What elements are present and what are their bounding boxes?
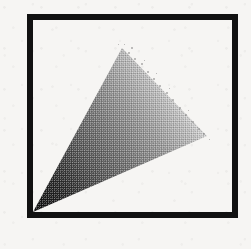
figure-container	[0, 0, 251, 249]
triangle-dither-overlay-coarse	[30, 40, 215, 220]
figure-canvas	[0, 0, 251, 249]
gradient-triangle	[30, 40, 215, 220]
